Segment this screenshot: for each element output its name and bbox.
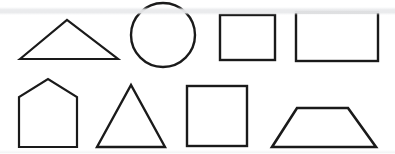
- shapes-canvas: [0, 0, 395, 154]
- shapes-worksheet: [0, 0, 395, 154]
- canvas-background: [0, 0, 395, 154]
